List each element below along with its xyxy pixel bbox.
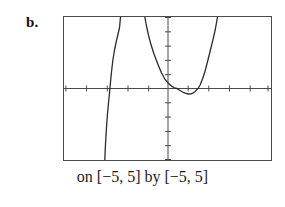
plot-svg <box>64 17 271 160</box>
graph-figure: b. <box>0 0 285 207</box>
curve-main-branch <box>145 17 218 94</box>
viewing-window-caption: on [−5, 5] by [−5, 5] <box>0 168 285 186</box>
calculator-viewing-window <box>63 16 272 161</box>
part-label: b. <box>26 15 39 30</box>
